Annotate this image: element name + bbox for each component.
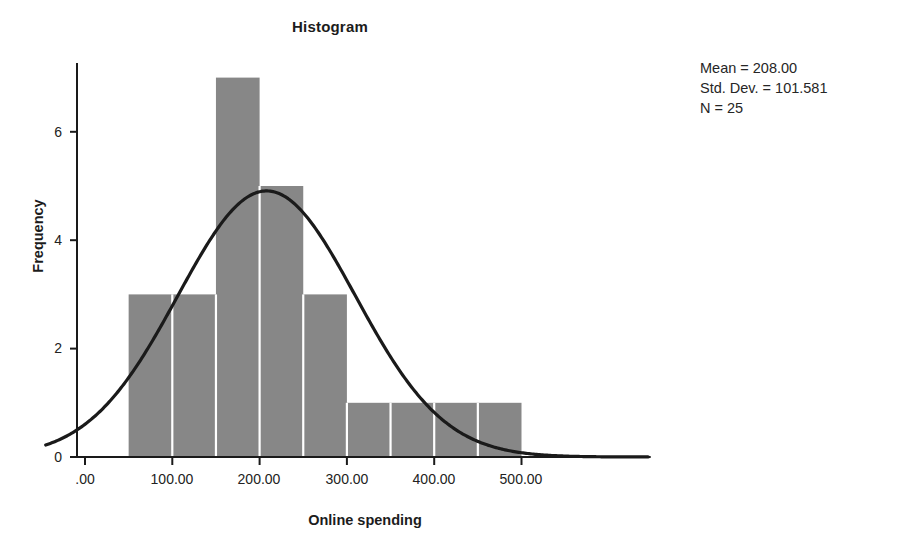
histogram-bars xyxy=(129,78,522,457)
histogram-bar-4 xyxy=(303,294,347,457)
histogram-bar-3 xyxy=(260,186,304,457)
histogram-bar-5 xyxy=(347,403,391,457)
histogram-bar-1 xyxy=(172,294,216,457)
histogram-figure: Histogram Mean = 208.00 Std. Dev. = 101.… xyxy=(0,0,908,559)
histogram-bar-6 xyxy=(391,403,435,457)
histogram-bar-2 xyxy=(216,78,260,457)
plot-canvas xyxy=(0,0,908,559)
